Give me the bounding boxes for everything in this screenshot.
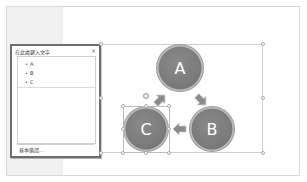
arrow-c-to-a-icon — [152, 91, 170, 109]
arrow-a-to-b-icon — [193, 92, 211, 110]
arrow-b-to-c-icon — [173, 123, 186, 135]
cycle-arrows — [0, 0, 307, 182]
